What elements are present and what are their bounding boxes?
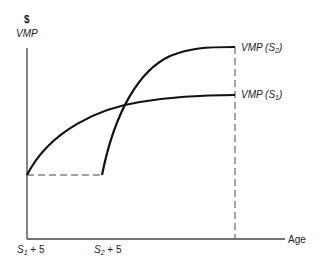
curve-vmp-s2: [102, 47, 235, 175]
y-unit-label: $: [24, 14, 30, 25]
y-axis-label: VMP: [16, 28, 38, 39]
chart-canvas: [0, 0, 320, 266]
curve-vmp-s1: [27, 95, 235, 175]
tick-s2-plus-5: S2 + 5: [94, 244, 122, 258]
tick-s1-plus-5: S1 + 5: [17, 244, 45, 258]
x-axis-label: Age: [288, 234, 306, 245]
legend-vmp-s1: VMP (S1): [241, 89, 282, 103]
legend-vmp-s2: VMP (S2): [241, 42, 282, 56]
